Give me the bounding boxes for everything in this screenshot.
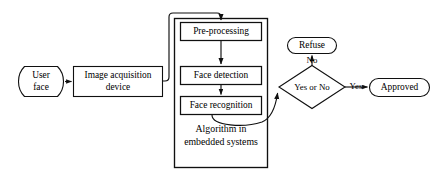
image-acquisition-label-line2: device	[106, 82, 130, 92]
edge-label-yes: Yes	[350, 81, 363, 91]
pre-processing-label: Pre-processing	[193, 26, 249, 36]
decision-label: Yes or No	[294, 82, 330, 92]
algorithm-caption-line1: Algorithm in	[196, 123, 247, 134]
user-face-label-line1: User	[32, 70, 51, 80]
face-detection-label: Face detection	[194, 70, 249, 80]
face-recognition-label: Face recognition	[190, 100, 253, 110]
edge-label-no: No	[307, 55, 318, 65]
algorithm-caption-line2: embedded systems	[184, 136, 258, 147]
refuse-label: Refuse	[299, 40, 325, 50]
flowchart-canvas: User face Image acquisition device Pre-p…	[0, 0, 434, 179]
approved-label: Approved	[381, 82, 419, 92]
flowchart-svg: User face Image acquisition device Pre-p…	[0, 0, 434, 179]
user-face-label-line2: face	[33, 82, 49, 92]
image-acquisition-label-line1: Image acquisition	[85, 70, 152, 80]
